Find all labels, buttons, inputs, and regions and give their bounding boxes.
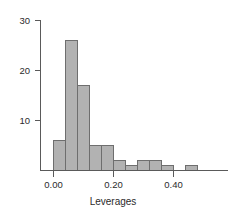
y-axis-tick-label: 10 [19,115,30,126]
y-axis-tick-label: 30 [19,15,30,26]
histogram-bar [138,161,150,171]
histogram-bar [150,161,162,171]
x-axis-title: Leverages [90,196,137,207]
histogram-bar [114,161,126,171]
histogram-bar [66,41,78,171]
x-axis-tick-label: 0.00 [44,179,63,190]
histogram-bar [54,141,66,171]
histogram-bar [126,166,138,171]
histogram-bar [78,86,90,171]
histogram-bar [162,166,174,171]
y-axis-tick-label: 20 [19,65,30,76]
histogram-bar [90,146,102,171]
histogram-bar [186,166,198,171]
x-axis-tick-label: 0.20 [104,179,123,190]
histogram-bar [102,146,114,171]
x-axis-tick-label: 0.40 [164,179,183,190]
histogram-figure: 102030 0.000.200.40 Leverages [0,0,238,216]
leverages-histogram: 102030 0.000.200.40 Leverages [0,0,238,216]
